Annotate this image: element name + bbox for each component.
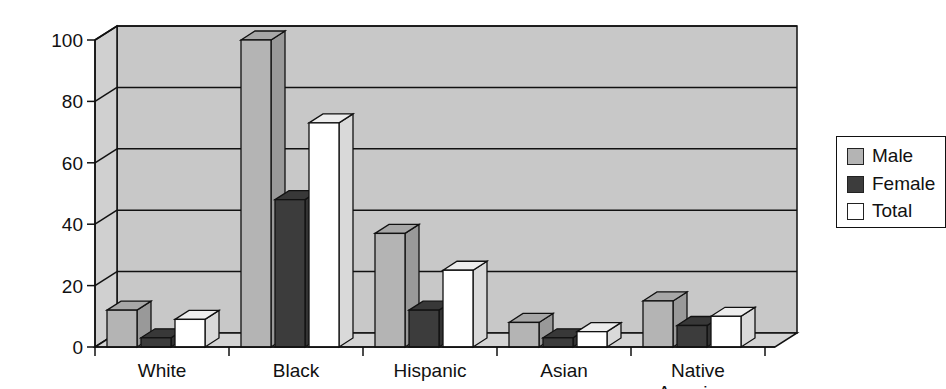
y-tick-label: 80 (62, 91, 83, 112)
bar-native-american-total (711, 307, 755, 347)
legend-swatch-total (847, 203, 864, 220)
bar-white-total (175, 310, 219, 347)
bar-black-total (309, 114, 353, 347)
y-tick-label: 0 (72, 337, 83, 358)
x-category-label: White (138, 360, 187, 381)
x-category-label: Hispanic (394, 360, 467, 381)
legend-label-male: Male (872, 145, 913, 167)
y-tick-label: 60 (62, 153, 83, 174)
y-tick-label: 20 (62, 276, 83, 297)
x-category-label: American (658, 382, 738, 389)
y-tick-label: 40 (62, 214, 83, 235)
legend-swatch-male (847, 148, 864, 165)
x-category-label: Black (273, 360, 320, 381)
x-category-label: Asian (540, 360, 588, 381)
legend: Male Female Total (836, 136, 946, 228)
bar-hispanic-total (443, 261, 487, 347)
y-axis: 020406080100 (51, 30, 95, 358)
y-tick-label: 100 (51, 30, 83, 51)
legend-swatch-female (847, 176, 864, 193)
legend-label-total: Total (872, 200, 912, 222)
legend-item-female: Female (847, 173, 935, 195)
legend-item-male: Male (847, 145, 913, 167)
x-category-label: Native (671, 360, 725, 381)
legend-label-female: Female (872, 173, 935, 195)
x-axis: WhiteBlackHispanicAsianNativeAmerican (95, 347, 775, 389)
legend-item-total: Total (847, 200, 912, 222)
